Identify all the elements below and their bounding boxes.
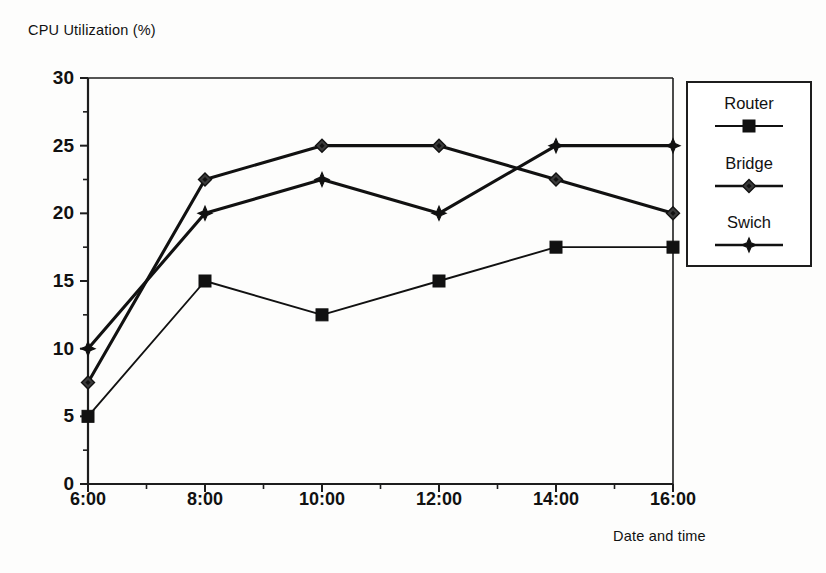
data-point bbox=[666, 139, 680, 153]
legend-marker-square-icon bbox=[707, 116, 791, 136]
legend-entry-swich: Swich bbox=[688, 212, 810, 255]
data-point bbox=[316, 139, 329, 152]
legend-entry-label: Bridge bbox=[688, 153, 810, 173]
data-point bbox=[549, 139, 563, 153]
data-point bbox=[82, 376, 95, 389]
data-point bbox=[82, 410, 94, 422]
data-point bbox=[667, 241, 679, 253]
data-point bbox=[550, 241, 562, 253]
legend-entry-bridge: Bridge bbox=[688, 153, 810, 196]
x-tick-label: 10:00 bbox=[299, 489, 345, 510]
data-point bbox=[199, 173, 212, 186]
y-tick-label: 15 bbox=[30, 270, 74, 292]
y-tick-label: 25 bbox=[30, 135, 74, 157]
y-tick-label: 5 bbox=[30, 405, 74, 427]
data-point bbox=[550, 173, 563, 186]
chart-legend: RouterBridgeSwich bbox=[686, 81, 812, 267]
data-point bbox=[667, 207, 680, 220]
y-tick-label: 20 bbox=[30, 202, 74, 224]
data-point bbox=[315, 173, 329, 187]
legend-marker-diamond-icon bbox=[707, 176, 791, 196]
legend-entry-label: Swich bbox=[688, 212, 810, 232]
chart-figure: CPU Utilization (%) Date and time 051015… bbox=[0, 0, 826, 573]
legend-entry-router: Router bbox=[688, 93, 810, 136]
data-point bbox=[433, 275, 445, 287]
x-tick-label: 12:00 bbox=[416, 489, 462, 510]
x-tick-label: 6:00 bbox=[70, 489, 106, 510]
x-tick-label: 14:00 bbox=[533, 489, 579, 510]
data-point bbox=[316, 309, 328, 321]
data-point bbox=[433, 139, 446, 152]
y-tick-label: 30 bbox=[30, 67, 74, 89]
y-tick-label: 0 bbox=[30, 473, 74, 495]
series-router bbox=[82, 241, 679, 422]
legend-entry-label: Router bbox=[688, 93, 810, 113]
y-tick-label: 10 bbox=[30, 338, 74, 360]
legend-marker-star-icon bbox=[707, 235, 791, 255]
data-point bbox=[199, 275, 211, 287]
series-bridge bbox=[82, 139, 680, 389]
x-tick-label: 16:00 bbox=[650, 489, 696, 510]
x-tick-label: 8:00 bbox=[187, 489, 223, 510]
axis-ticks bbox=[80, 78, 673, 492]
data-series-group bbox=[81, 139, 680, 423]
data-point bbox=[432, 206, 446, 220]
plot-frame bbox=[88, 78, 673, 484]
